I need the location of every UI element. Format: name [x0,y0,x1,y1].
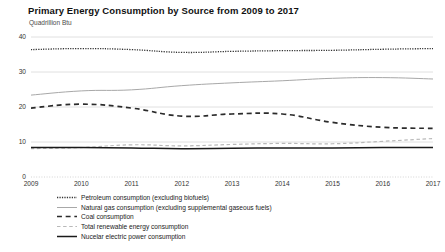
series-lines [31,49,433,149]
dashed-dark-line-key [57,212,77,221]
series-line-4 [31,148,433,149]
solid-black-line-key [57,232,77,241]
series-line-2 [31,104,433,128]
plot-svg [31,37,433,177]
series-line-1 [31,78,433,96]
legend-item[interactable]: Nucelar electric power consumption [57,231,272,241]
y-axis-label-0: 0 [8,173,26,180]
y-axis-label-30: 30 [8,68,26,75]
plot-area [31,37,433,177]
x-axis-label-2013: 2013 [215,180,249,187]
legend-item[interactable]: Total renewable energy consumption [57,222,272,232]
legend-label: Nucelar electric power consumption [81,232,185,241]
x-axis-label-2015: 2015 [316,180,350,187]
x-axis-label-2017: 2017 [416,180,445,187]
solid-gray-line-key [57,203,77,212]
x-axis-label-2009: 2009 [14,180,48,187]
x-axis-label-2011: 2011 [115,180,149,187]
legend-label: Natural gas consumption (excluding suppl… [81,203,272,212]
x-axis-label-2010: 2010 [64,180,98,187]
chart-legend: Petroleum consumption (excluding biofuel… [57,193,272,241]
x-axis-label-2016: 2016 [366,180,400,187]
dotted-line-key [57,193,77,202]
legend-item[interactable]: Natural gas consumption (excluding suppl… [57,203,272,213]
series-line-0 [31,49,433,53]
gridlines [31,37,433,177]
legend-label: Coal consumption [81,212,134,221]
y-axis-label-10: 10 [8,138,26,145]
y-axis-label-40: 40 [8,33,26,40]
legend-label: Total renewable energy consumption [81,222,188,231]
y-axis-label-20: 20 [8,103,26,110]
chart-subtitle: Quadrillion Btu [29,19,72,26]
chart-title: Primary Energy Consumption by Source fro… [28,5,299,16]
legend-label: Petroleum consumption (excluding biofuel… [81,193,209,202]
legend-item[interactable]: Coal consumption [57,212,272,222]
x-axis-label-2012: 2012 [165,180,199,187]
dashed-gray-line-key [57,222,77,231]
legend-item[interactable]: Petroleum consumption (excluding biofuel… [57,193,272,203]
x-axis-label-2014: 2014 [265,180,299,187]
